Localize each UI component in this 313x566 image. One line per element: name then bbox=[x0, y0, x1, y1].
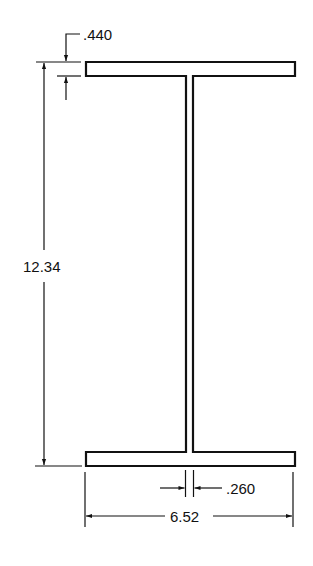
web-thickness-dimension bbox=[160, 470, 222, 497]
beam-profile bbox=[86, 62, 295, 466]
i-beam-drawing: .440 12.34 .260 6.52 bbox=[0, 0, 313, 566]
web-thickness-label: .260 bbox=[226, 480, 255, 497]
flange-width-label: 6.52 bbox=[170, 508, 199, 525]
flange-thickness-dimension bbox=[36, 34, 81, 100]
leader-arrow-down bbox=[66, 34, 80, 61]
flange-thickness-label: .440 bbox=[83, 26, 112, 43]
depth-label: 12.34 bbox=[23, 258, 61, 275]
